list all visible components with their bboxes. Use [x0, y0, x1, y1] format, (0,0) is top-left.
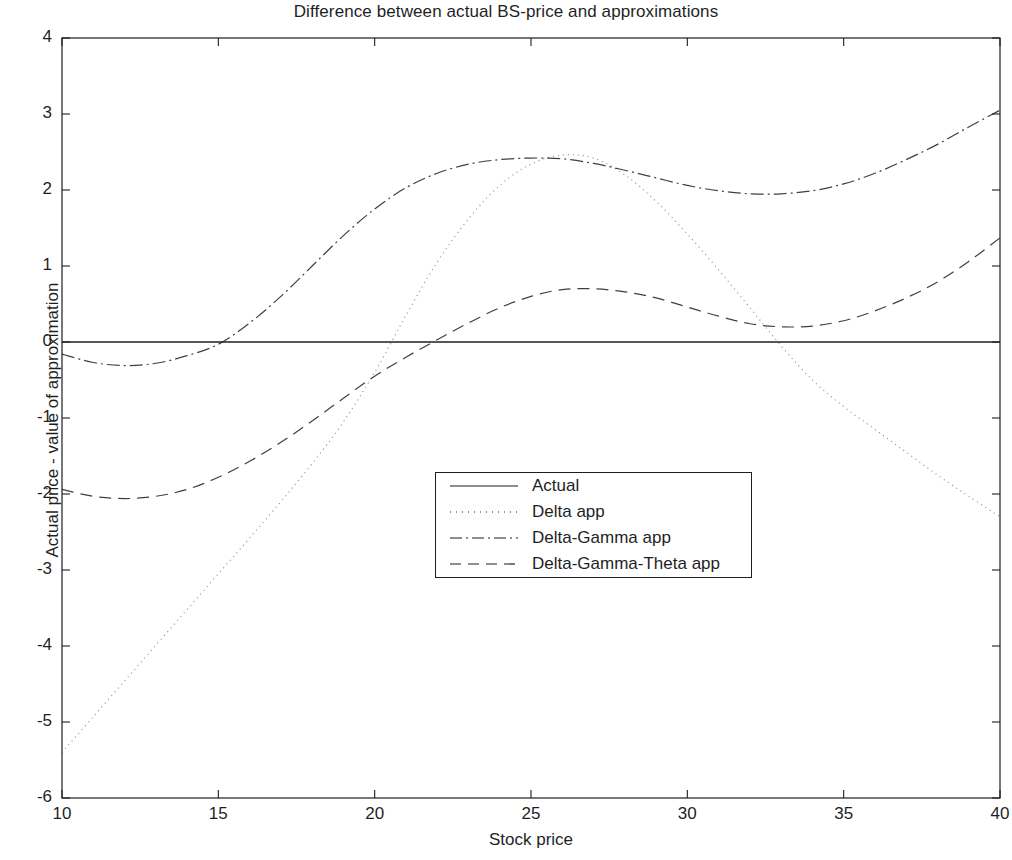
x-tick-label: 40: [970, 804, 1012, 824]
series-delta-app: [62, 155, 1000, 753]
legend-label: Delta-Gamma app: [532, 528, 671, 548]
x-tick-label: 30: [657, 804, 717, 824]
legend-label: Delta-Gamma-Theta app: [532, 554, 720, 574]
legend-line-sample-delta-gamma-theta: [448, 554, 520, 574]
y-tick-label: 1: [6, 255, 52, 275]
y-tick-label: -2: [6, 483, 52, 503]
y-tick-label: -4: [6, 635, 52, 655]
y-tick-label: -1: [6, 407, 52, 427]
legend-line-sample-delta: [448, 502, 520, 522]
legend-line-sample-actual: [448, 476, 520, 496]
series-delta-gamma-app: [62, 110, 1000, 365]
y-tick-label: -6: [6, 787, 52, 807]
y-tick-label: 3: [6, 103, 52, 123]
legend-label: Delta app: [532, 502, 605, 522]
x-tick-label: 10: [32, 804, 92, 824]
y-tick-label: -5: [6, 711, 52, 731]
x-tick-label: 15: [188, 804, 248, 824]
legend-item: Actual: [436, 473, 751, 499]
y-tick-label: -3: [6, 559, 52, 579]
series-delta-gamma-theta-app: [62, 238, 1000, 499]
legend-item: Delta app: [436, 499, 751, 525]
legend-item: Delta-Gamma-Theta app: [436, 551, 751, 577]
figure-canvas: Difference between actual BS-price and a…: [0, 0, 1012, 860]
legend-line-sample-delta-gamma: [448, 528, 520, 548]
plot-area: [0, 0, 1012, 860]
legend: Actual Delta app Delta-Gamma app Delta-G…: [435, 472, 752, 578]
x-tick-label: 20: [345, 804, 405, 824]
legend-item: Delta-Gamma app: [436, 525, 751, 551]
x-tick-label: 35: [814, 804, 874, 824]
y-tick-label: 4: [6, 27, 52, 47]
legend-label: Actual: [532, 476, 579, 496]
data-series-group: [62, 110, 1000, 752]
y-tick-label: 2: [6, 179, 52, 199]
y-tick-label: 0: [6, 331, 52, 351]
x-tick-label: 25: [501, 804, 561, 824]
